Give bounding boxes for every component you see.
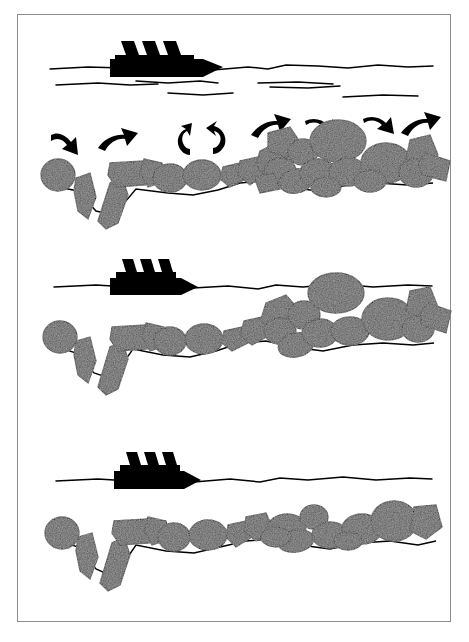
ship-funnel-3: [162, 452, 177, 465]
water-surface-group: [56, 477, 432, 482]
wave-ripple-4: [258, 82, 333, 84]
panel-stage-3: [18, 437, 452, 623]
panel-stage-1-drawing: [18, 15, 452, 245]
rock-group: [41, 120, 450, 229]
panel-stage-2: [18, 245, 452, 437]
rock-block: [410, 505, 442, 539]
ship-funnel-1: [121, 41, 139, 55]
ship-funnel-3: [158, 259, 173, 272]
wave-ripple-6: [343, 95, 418, 97]
arrow-right-down-2-icon: [363, 117, 394, 134]
wave-ripple-1: [56, 83, 158, 85]
ship-hull: [114, 471, 201, 489]
figure-root: [0, 0, 469, 642]
rock-cobble: [189, 520, 227, 550]
ship-hull: [110, 59, 223, 77]
rock-boulder: [308, 273, 364, 313]
rock-boulder: [310, 120, 366, 162]
panel-stage-2-drawing: [18, 245, 452, 437]
ship-funnel-2: [140, 259, 155, 272]
rock-cobble: [153, 164, 187, 192]
rock-cobble: [354, 170, 386, 192]
rock-cobble: [311, 177, 341, 197]
arrow-rotate-cw-icon: [206, 121, 225, 154]
rock-boulder: [371, 501, 417, 541]
arrow-down-right-icon: [51, 133, 78, 155]
water-surface-line: [56, 477, 432, 482]
arrow-rotate-ccw-icon: [178, 123, 192, 155]
ship-funnel-1: [122, 259, 137, 272]
rock-group: [45, 501, 442, 591]
arrow-up-right-3-icon: [401, 112, 441, 136]
rock-block: [74, 337, 96, 383]
rock-block: [74, 173, 96, 219]
ship-deck: [120, 465, 180, 472]
ship-silhouette: [110, 259, 198, 295]
figure-border-frame: [17, 14, 451, 622]
rock-cobble: [43, 321, 77, 353]
ship-silhouette: [110, 41, 223, 77]
rock-cobble: [158, 523, 190, 551]
rock-cobble: [154, 327, 186, 355]
rock-cobble: [45, 517, 79, 549]
rock-cobble: [185, 324, 223, 354]
wave-ripple-5: [270, 86, 340, 88]
ship-hull: [110, 278, 198, 295]
rock-cobble: [334, 532, 362, 550]
ship-deck: [115, 55, 194, 61]
ship-silhouette: [114, 452, 201, 489]
rock-group: [43, 273, 451, 395]
ship-funnel-2: [142, 41, 160, 55]
wave-ripple-3: [168, 93, 233, 95]
water-surface-line: [50, 65, 433, 70]
panel-stage-3-drawing: [18, 437, 452, 623]
rock-cobble: [41, 159, 75, 191]
rock-block: [76, 533, 98, 579]
ship-funnel-2: [144, 452, 159, 465]
ship-deck: [116, 272, 176, 279]
wave-ripple-2: [136, 81, 218, 83]
panel-stage-1: [18, 15, 452, 245]
arrow-up-right-icon: [98, 128, 138, 151]
rock-cobble: [261, 527, 291, 547]
ship-funnel-3: [163, 41, 181, 55]
water-surface-group: [50, 65, 433, 97]
ship-funnel-1: [126, 452, 141, 465]
rock-cobble: [183, 160, 221, 190]
